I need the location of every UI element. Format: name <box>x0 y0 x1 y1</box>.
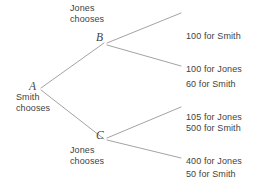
payoff-3-smith: 500 for Smith <box>186 123 242 134</box>
edge-a-to-b <box>41 43 104 88</box>
edge-c-to-payoff-4 <box>107 140 181 158</box>
node-a-actor-label: Smith chooses <box>16 92 50 114</box>
payoff-1-smith: 100 for Smith <box>186 31 242 42</box>
payoff-4-smith: 50 for Smith <box>186 169 242 180</box>
payoff-2-smith: 60 for Smith <box>186 79 242 90</box>
node-b-actor-label: Jones chooses <box>70 3 104 25</box>
node-c-actor-label: Jones chooses <box>70 145 104 167</box>
game-tree-diagram: Jones chooses B A Smith chooses C Jones … <box>0 0 257 184</box>
payoff-node-4: 50 for Smith 420 for Jones <box>186 147 242 184</box>
edge-c-to-payoff-3 <box>107 107 181 138</box>
edge-b-to-payoff-2 <box>107 45 181 66</box>
edge-a-to-c <box>41 90 104 139</box>
node-c-letter: C <box>96 129 104 141</box>
edge-b-to-payoff-1 <box>107 13 181 43</box>
node-b-letter: B <box>96 31 103 43</box>
node-a-letter: A <box>29 80 36 92</box>
